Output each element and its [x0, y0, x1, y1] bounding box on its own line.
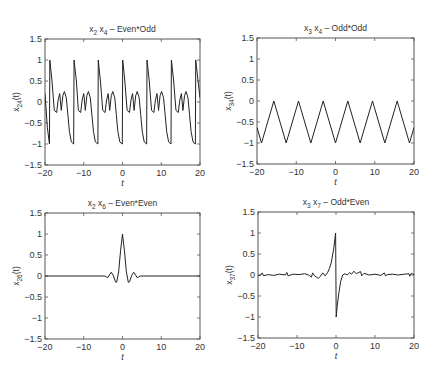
y-tick-label: 0 [37, 97, 42, 107]
plot-x37-odd-even: −20−1001020−1.5−1−0.500.511.5x3 x7 – Odd… [224, 197, 419, 361]
y-tick-label: −0.5 [24, 292, 42, 302]
y-tick-label: 1 [249, 54, 254, 64]
y-tick-label: 0 [250, 270, 255, 280]
x-tick-label: 10 [156, 168, 166, 178]
x-tick-label: 10 [156, 342, 166, 352]
x-axis-label: t [121, 178, 124, 188]
x-tick-label: 20 [195, 168, 205, 178]
x-tick-label: 0 [120, 342, 125, 352]
y-tick-label: 1 [37, 229, 42, 239]
y-tick-label: −1.5 [24, 160, 42, 170]
y-tick-label: −1 [244, 138, 254, 148]
axes-frame [257, 38, 414, 164]
y-tick-label: 0.5 [29, 250, 42, 260]
y-tick-label: 0.5 [241, 75, 254, 85]
y-tick-label: 1.5 [29, 208, 42, 218]
y-tick-label: 0.5 [242, 249, 255, 259]
plot-x24-even-odd: −20−1001020−1.5−1−0.500.511.5x2 x4 – Eve… [11, 24, 205, 188]
y-tick-label: 0 [37, 271, 42, 281]
y-tick-label: −1.5 [237, 333, 255, 343]
figure: −20−1001020−1.5−1−0.500.511.5x2 x4 – Eve… [0, 0, 437, 377]
x-tick-label: −10 [76, 342, 91, 352]
x-axis-label: t [334, 177, 337, 187]
y-tick-label: 1 [37, 55, 42, 65]
y-tick-label: 1 [250, 228, 255, 238]
x-tick-label: 0 [120, 168, 125, 178]
y-axis-label: x37(t) [224, 265, 236, 285]
plot-title: x3 x4 – Odd*Odd [304, 23, 367, 35]
x-tick-label: 20 [195, 342, 205, 352]
y-tick-label: 0 [249, 96, 254, 106]
x-tick-label: −10 [289, 167, 304, 177]
y-tick-label: 1.5 [29, 34, 42, 44]
x-tick-label: 0 [333, 341, 338, 351]
plot-x26-even-even: −20−1001020−1.5−1−0.500.511.5x2 x6 – Eve… [11, 198, 205, 362]
data-line [258, 233, 414, 317]
plot-title: x3 x7 – Odd*Even [303, 197, 370, 209]
plot-x34-odd-odd: −20−1001020−1.5−1−0.500.511.5x3 x4 – Odd… [223, 23, 419, 187]
y-axis-label: x24(t) [11, 92, 23, 112]
plot-title: x2 x6 – Even*Even [88, 198, 158, 210]
x-tick-label: 10 [370, 341, 380, 351]
y-tick-label: −0.5 [24, 118, 42, 128]
y-tick-label: −1 [245, 312, 255, 322]
plot-title: x2 x4 – Even*Odd [89, 24, 156, 36]
x-tick-label: 0 [333, 167, 338, 177]
x-tick-label: 20 [409, 341, 419, 351]
x-axis-label: t [335, 351, 338, 361]
x-tick-label: 10 [370, 167, 380, 177]
y-tick-label: 1.5 [242, 207, 255, 217]
y-tick-label: −1.5 [24, 334, 42, 344]
y-tick-label: −1.5 [236, 159, 254, 169]
data-line [257, 101, 414, 143]
y-tick-label: −0.5 [237, 291, 255, 301]
y-tick-label: −1 [32, 139, 42, 149]
data-line [45, 234, 200, 282]
y-tick-label: 1.5 [241, 33, 254, 43]
x-tick-label: −10 [289, 341, 304, 351]
y-tick-label: −1 [32, 313, 42, 323]
x-tick-label: 20 [409, 167, 419, 177]
y-axis-label: x26(t) [11, 266, 23, 286]
x-axis-label: t [121, 352, 124, 362]
y-tick-label: 0.5 [29, 76, 42, 86]
y-axis-label: x34(t) [223, 91, 235, 111]
data-line [45, 60, 200, 144]
y-tick-label: −0.5 [236, 117, 254, 127]
x-tick-label: −10 [76, 168, 91, 178]
